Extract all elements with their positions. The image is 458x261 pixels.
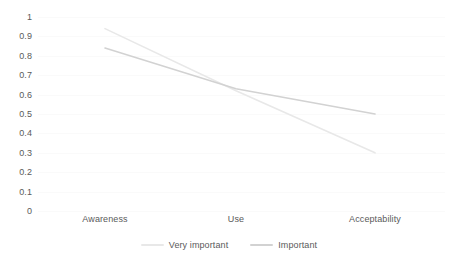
line-chart: 10.90.80.70.60.50.40.30.20.10 AwarenessU… [0,0,458,261]
legend-item-label: Very important [169,241,228,250]
series-line [105,29,375,153]
y-axis-tick-label: 0.8 [19,51,32,60]
x-axis-tick-label: Acceptability [349,215,401,224]
y-axis-tick-label: 0.1 [19,187,32,196]
chart-legend: Very importantImportant [0,236,458,254]
y-axis-tick-label: 0.7 [19,71,32,80]
y-axis-tick-label: 0.9 [19,32,32,41]
y-axis-tick-label: 0.6 [19,90,32,99]
y-axis-tick-label: 0.3 [19,148,32,157]
y-axis-tick-label: 0.2 [19,168,32,177]
gridline [38,211,445,212]
x-axis-tick-label: Use [228,215,244,224]
x-axis: AwarenessUseAcceptability [38,215,445,231]
y-axis-tick-label: 1 [27,13,32,22]
series-line [105,48,375,114]
series-layer [38,17,445,211]
y-axis-tick-label: 0.4 [19,129,32,138]
legend-item[interactable]: Important [250,241,317,250]
plot-area [38,17,445,211]
legend-item[interactable]: Very important [141,241,228,250]
legend-line-swatch-icon [141,244,164,246]
legend-item-label: Important [278,241,317,250]
y-axis-tick-label: 0.5 [19,110,32,119]
y-axis-tick-label: 0 [27,207,32,216]
legend-line-swatch-icon [250,244,273,246]
x-axis-tick-label: Awareness [82,215,127,224]
y-axis: 10.90.80.70.60.50.40.30.20.10 [0,0,36,220]
